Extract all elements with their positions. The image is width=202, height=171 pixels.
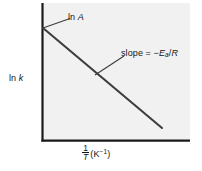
plot-area-background [42,3,190,141]
arrhenius-plot-figure: ln k ln A slope = −Ea/R 1T(K−1) [0,0,202,171]
x-axis-fraction-numerator: 1 [82,144,89,152]
x-axis-fraction-denominator: T [82,152,89,162]
x-axis-units-close: ) [107,149,110,159]
intercept-label-variable: A [78,12,84,22]
y-axis-label: ln k [9,74,23,83]
x-axis-label: 1T(K−1) [82,145,110,163]
slope-annotation: slope = −Ea/R [121,49,178,59]
intercept-annotation: ln A [68,13,84,22]
y-axis-label-variable: k [19,73,24,83]
x-axis-units: (K−1) [89,149,110,159]
intercept-label-prefix: ln [68,12,78,22]
slope-label-prefix: slope = − [121,48,159,58]
y-axis-label-prefix: ln [9,73,19,83]
x-axis-fraction: 1T [82,144,89,162]
x-axis-units-exponent: −1 [100,148,108,155]
x-axis-units-open: (K [90,149,99,159]
slope-label-denominator: R [171,48,178,58]
